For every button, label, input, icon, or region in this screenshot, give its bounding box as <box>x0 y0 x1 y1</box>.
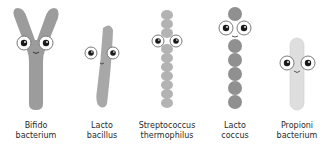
propionibacterium-figure <box>280 38 315 110</box>
lactobacillus-figure <box>85 25 119 107</box>
label-line2: bacterium <box>257 131 326 141</box>
label-propionibacterium: Propioni bacterium <box>257 121 326 141</box>
bifidobacterium-figure <box>14 8 59 110</box>
lactococcus-figure <box>219 7 251 109</box>
streptococcus-figure <box>152 10 182 108</box>
label-line1: Propioni <box>257 121 326 131</box>
